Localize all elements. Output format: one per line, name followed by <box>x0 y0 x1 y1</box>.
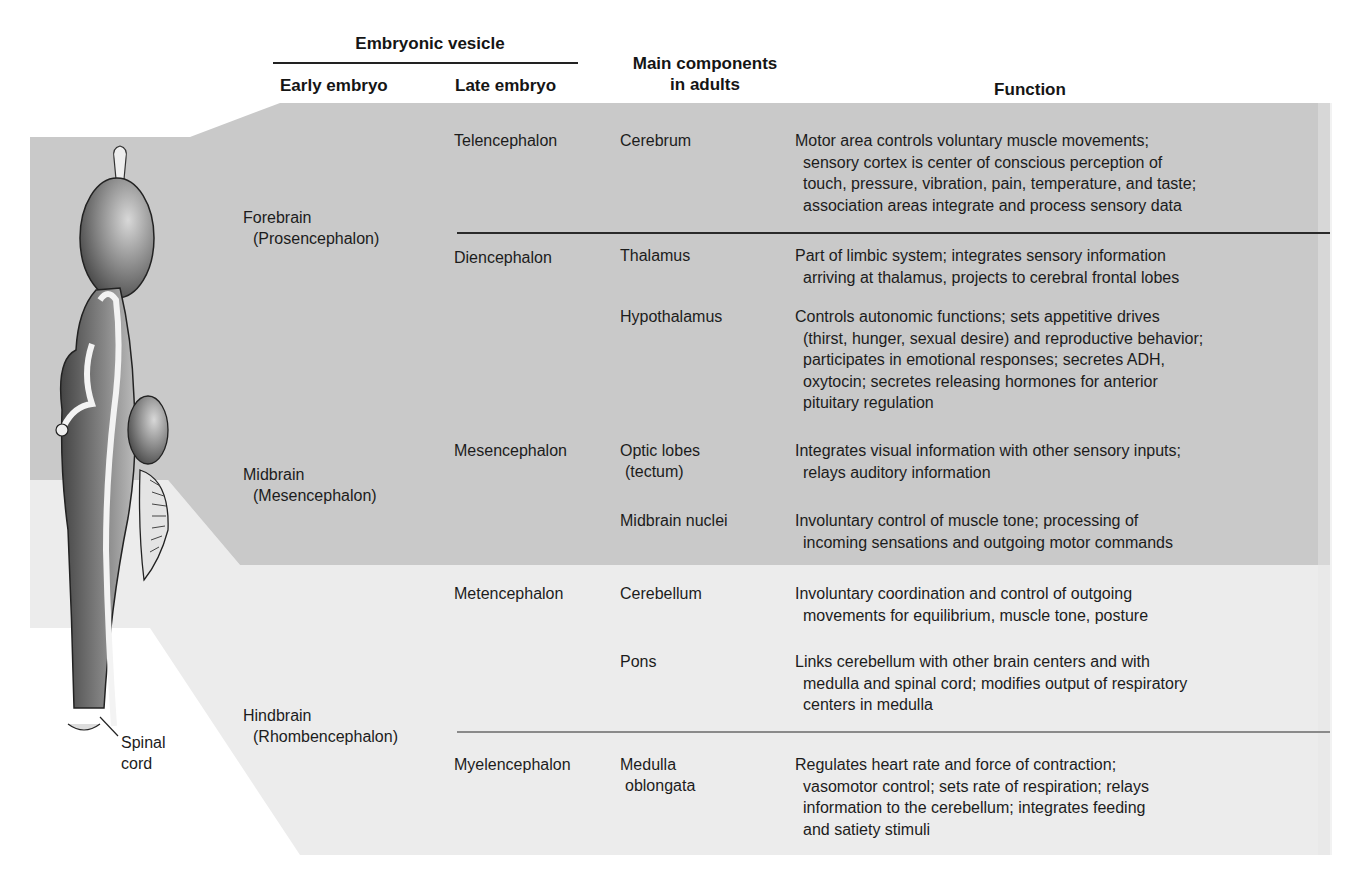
function-line: Motor area controls voluntary muscle mov… <box>795 130 1196 152</box>
early-midbrain: Midbrain (Mesencephalon) <box>243 464 377 506</box>
header-rule <box>273 62 578 64</box>
function-line: information to the cerebellum; integrate… <box>795 797 1149 819</box>
late-mesencephalon: Mesencephalon <box>454 440 567 461</box>
header-main-components: Main components in adults <box>610 53 800 95</box>
early-hindbrain-name: Hindbrain <box>243 705 398 726</box>
component-medulla-line2: oblongata <box>620 775 695 796</box>
component-pons: Pons <box>620 651 656 672</box>
early-forebrain: Forebrain (Prosencephalon) <box>243 207 379 249</box>
early-midbrain-name: Midbrain <box>243 464 377 485</box>
function-line: arriving at thalamus, projects to cerebr… <box>795 267 1179 289</box>
function-medulla: Regulates heart rate and force of contra… <box>795 754 1149 840</box>
function-line: medulla and spinal cord; modifies output… <box>795 673 1187 695</box>
late-myelencephalon: Myelencephalon <box>454 754 571 775</box>
component-cerebrum: Cerebrum <box>620 130 691 151</box>
header-main-components-line2: in adults <box>610 74 800 95</box>
function-line: Controls autonomic functions; sets appet… <box>795 306 1203 328</box>
divider-metencephalon-myelencephalon <box>457 731 1330 733</box>
function-line: Regulates heart rate and force of contra… <box>795 754 1149 776</box>
header-early-embryo: Early embryo <box>280 75 412 96</box>
component-medulla-oblongata: Medulla oblongata <box>620 754 695 796</box>
function-pons: Links cerebellum with other brain center… <box>795 651 1187 716</box>
function-cerebrum: Motor area controls voluntary muscle mov… <box>795 130 1196 216</box>
function-line: Integrates visual information with other… <box>795 440 1181 462</box>
function-line: relays auditory information <box>795 462 1181 484</box>
early-hindbrain-alt: (Rhombencephalon) <box>243 726 398 747</box>
component-optic-lobes-line1: Optic lobes <box>620 440 700 461</box>
header-function: Function <box>930 79 1130 100</box>
late-diencephalon: Diencephalon <box>454 247 552 268</box>
function-cerebellum: Involuntary coordination and control of … <box>795 583 1148 626</box>
early-forebrain-name: Forebrain <box>243 207 379 228</box>
component-cerebellum: Cerebellum <box>620 583 702 604</box>
function-line: vasomotor control; sets rate of respirat… <box>795 776 1149 798</box>
function-midbrain-nuclei: Involuntary control of muscle tone; proc… <box>795 510 1173 553</box>
function-line: centers in medulla <box>795 694 1187 716</box>
function-thalamus: Part of limbic system; integrates sensor… <box>795 245 1179 288</box>
spinal-cord-label-line2: cord <box>121 753 165 774</box>
header-embryonic-vesicle: Embryonic vesicle <box>280 33 580 54</box>
function-line: Links cerebellum with other brain center… <box>795 651 1187 673</box>
function-line: oxytocin; secretes releasing hormones fo… <box>795 371 1203 393</box>
component-midbrain-nuclei: Midbrain nuclei <box>620 510 728 531</box>
early-forebrain-alt: (Prosencephalon) <box>243 228 379 249</box>
late-telencephalon: Telencephalon <box>454 130 557 151</box>
function-line: Involuntary control of muscle tone; proc… <box>795 510 1173 532</box>
function-line: pituitary regulation <box>795 392 1203 414</box>
function-line: association areas integrate and process … <box>795 195 1196 217</box>
embryo-brain-illustration <box>0 140 200 740</box>
component-thalamus: Thalamus <box>620 245 690 266</box>
header-late-embryo: Late embryo <box>455 75 585 96</box>
function-line: Part of limbic system; integrates sensor… <box>795 245 1179 267</box>
function-line: sensory cortex is center of conscious pe… <box>795 152 1196 174</box>
component-optic-lobes: Optic lobes (tectum) <box>620 440 700 482</box>
early-hindbrain: Hindbrain (Rhombencephalon) <box>243 705 398 747</box>
spinal-cord-label: Spinal cord <box>121 732 165 774</box>
function-line: participates in emotional responses; sec… <box>795 349 1203 371</box>
divider-telencephalon-diencephalon <box>457 232 1330 234</box>
function-line: (thirst, hunger, sexual desire) and repr… <box>795 328 1203 350</box>
function-optic-lobes: Integrates visual information with other… <box>795 440 1181 483</box>
early-midbrain-alt: (Mesencephalon) <box>243 485 377 506</box>
component-optic-lobes-line2: (tectum) <box>620 461 700 482</box>
spinal-cord-label-line1: Spinal <box>121 732 165 753</box>
late-metencephalon: Metencephalon <box>454 583 563 604</box>
function-line: incoming sensations and outgoing motor c… <box>795 532 1173 554</box>
function-line: and satiety stimuli <box>795 819 1149 841</box>
function-hypothalamus: Controls autonomic functions; sets appet… <box>795 306 1203 414</box>
function-line: Involuntary coordination and control of … <box>795 583 1148 605</box>
header-main-components-line1: Main components <box>610 53 800 74</box>
component-medulla-line1: Medulla <box>620 754 695 775</box>
function-line: movements for equilibrium, muscle tone, … <box>795 605 1148 627</box>
function-line: touch, pressure, vibration, pain, temper… <box>795 173 1196 195</box>
component-hypothalamus: Hypothalamus <box>620 306 722 327</box>
